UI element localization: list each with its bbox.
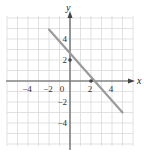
data-point: [89, 79, 93, 83]
x-tick-label: 0: [60, 84, 65, 94]
x-axis-label: x: [136, 75, 142, 86]
y-tick-label: −2: [57, 97, 67, 107]
x-tick-label: 2: [88, 84, 93, 94]
axes: x y: [6, 2, 142, 150]
y-axis-label: y: [65, 2, 71, 13]
x-tick-label: −2: [43, 84, 53, 94]
y-tick-label: −4: [57, 118, 67, 128]
y-tick-label: 2: [63, 55, 68, 65]
y-tick-label: 4: [63, 34, 68, 44]
x-tick-label: 4: [109, 84, 114, 94]
x-axis-arrow-icon: [128, 79, 135, 84]
coordinate-plane: x y −4−2024 42−2−4: [0, 0, 144, 155]
data-point: [68, 58, 72, 62]
x-tick-label: −4: [22, 84, 32, 94]
